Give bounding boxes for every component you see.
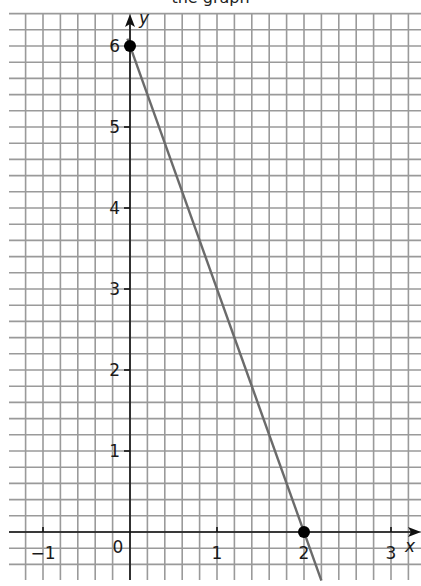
data-point <box>298 526 310 538</box>
line-chart: xy−10123123456 <box>0 0 421 586</box>
y-tick-label: 6 <box>109 36 120 56</box>
data-point <box>124 40 136 52</box>
y-tick-label: 3 <box>109 279 120 299</box>
y-tick-label: 1 <box>109 441 120 461</box>
x-tick-label: 1 <box>212 543 223 563</box>
y-axis-label: y <box>138 8 150 28</box>
x-axis-label: x <box>404 536 416 556</box>
y-tick-label: 5 <box>109 117 120 137</box>
y-tick-label: 4 <box>109 198 120 218</box>
x-tick-label: 0 <box>113 537 124 557</box>
x-tick-label: −1 <box>30 543 55 563</box>
y-tick-label: 2 <box>109 360 120 380</box>
grid <box>9 14 421 580</box>
x-tick-label: 3 <box>386 543 397 563</box>
